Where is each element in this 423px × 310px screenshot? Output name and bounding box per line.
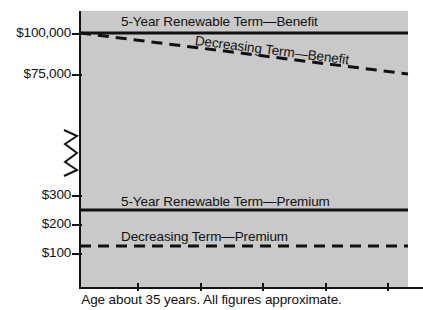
chart-caption: Age about 35 years. All figures approxim… [0,292,423,307]
label-renewable-benefit: 5-Year Renewable Term—Benefit [121,14,318,29]
label-renewable-premium: 5-Year Renewable Term—Premium [121,194,330,209]
label-decreasing-premium: Decreasing Term—Premium [121,229,288,244]
insurance-term-comparison-chart: $100,000 $75,000 $300 $200 $100 5-Year R… [0,0,423,310]
